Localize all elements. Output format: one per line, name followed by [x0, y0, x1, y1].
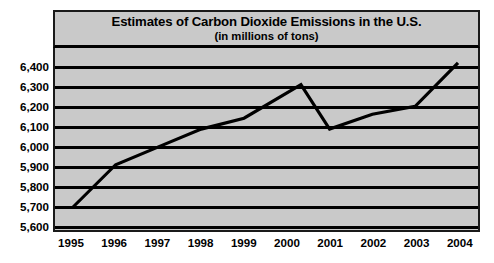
y-axis-tick-label: 6,300: [1, 81, 49, 93]
y-axis-labels: 6,4006,3006,2006,1006,0005,9005,8005,700…: [0, 0, 49, 263]
x-axis-tick-label: 2003: [394, 236, 440, 250]
y-axis-tick-label: 6,000: [1, 141, 49, 153]
series-polyline: [73, 63, 458, 207]
x-axis-tick-label: 2001: [307, 236, 353, 250]
y-axis-tick-label: 6,100: [1, 121, 49, 133]
chart-title: Estimates of Carbon Dioxide Emissions in…: [112, 14, 422, 29]
x-axis-tick-label: 1997: [134, 236, 180, 250]
x-axis-tick-label: 1996: [91, 236, 137, 250]
y-axis-tick-label: 5,700: [1, 201, 49, 213]
carbon-dioxide-emissions-line-chart: Estimates of Carbon Dioxide Emissions in…: [0, 0, 494, 263]
x-axis-tick-label: 1999: [221, 236, 267, 250]
x-axis-labels: 1995199619971998199920002001200220032004: [53, 236, 480, 256]
chart-title-box: Estimates of Carbon Dioxide Emissions in…: [53, 10, 480, 48]
x-axis-tick-label: 1998: [178, 236, 224, 250]
x-axis-tick-label: 2000: [264, 236, 310, 250]
x-axis-tick-label: 2002: [350, 236, 396, 250]
y-axis-tick-label: 6,400: [1, 61, 49, 73]
chart-subtitle: (in millions of tons): [214, 29, 318, 43]
emissions-line-series: [55, 48, 478, 230]
y-axis-tick-label: 5,800: [1, 181, 49, 193]
y-axis-tick-label: 5,600: [1, 221, 49, 233]
y-axis-tick-label: 6,200: [1, 101, 49, 113]
x-axis-tick-label: 2004: [437, 236, 483, 250]
x-axis-tick-label: 1995: [48, 236, 94, 250]
plot-area: [53, 48, 480, 232]
y-axis-tick-label: 5,900: [1, 161, 49, 173]
